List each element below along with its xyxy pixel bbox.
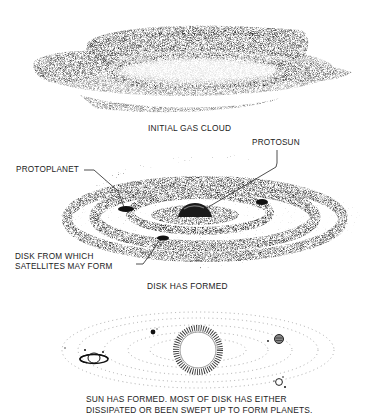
sun-icon xyxy=(176,328,220,372)
caption-initial-gas-cloud: INITIAL GAS CLOUD xyxy=(148,123,231,134)
label-satellite-disk-line1: DISK FROM WHICH xyxy=(15,252,94,262)
label-protosun: PROTOSUN xyxy=(252,138,300,148)
planet-icon xyxy=(151,330,156,335)
label-satellite-disk-line2: SATELLITES MAY FORM xyxy=(15,262,113,272)
planet-icon xyxy=(267,335,283,344)
protoplanet-icon xyxy=(118,206,134,212)
caption-sun-formed-line2: DISSIPATED OR BEEN SWEPT UP TO FORM PLAN… xyxy=(86,405,313,416)
caption-disk-formed: DISK HAS FORMED xyxy=(147,281,228,292)
gas-cloud-illustration xyxy=(0,0,370,140)
stage-sun-formed: SUN HAS FORMED. MOST OF DISK HAS EITHER … xyxy=(0,300,370,417)
caption-sun-formed-line1: SUN HAS FORMED. MOST OF DISK HAS EITHER xyxy=(86,394,287,405)
protoplanetary-disk-illustration xyxy=(0,137,370,300)
ringed-planet-icon xyxy=(80,349,108,364)
stage-initial-gas-cloud: INITIAL GAS CLOUD xyxy=(0,0,370,140)
label-protoplanet: PROTOPLANET xyxy=(16,165,79,175)
planet-icon xyxy=(273,376,286,388)
stage-disk-formed: PROTOSUN PROTOPLANET DISK FROM WHICH SAT… xyxy=(0,137,370,300)
